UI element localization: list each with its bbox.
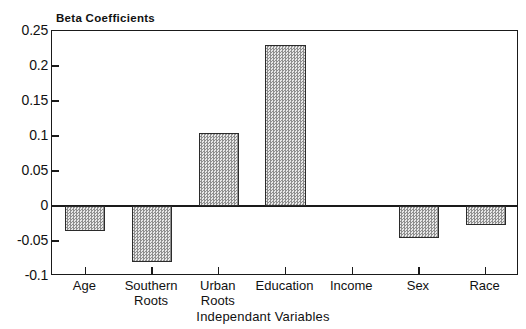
x-tick-mark [285, 267, 286, 274]
plot-inner [52, 31, 517, 274]
plot-area [51, 30, 518, 275]
bar-age [65, 206, 105, 231]
y-tick-label: 0.2 [2, 58, 48, 72]
x-axis-tick-labels: AgeSouthern RootsUrban RootsEducationInc… [51, 279, 518, 313]
y-tick-mark [52, 240, 59, 241]
y-tick-label: 0.25 [2, 23, 48, 37]
x-tick-mark [352, 267, 353, 274]
bar-race [466, 206, 506, 225]
x-tick-label: Income [330, 279, 373, 294]
bar-sex [399, 206, 439, 238]
y-tick-label: 0.15 [2, 93, 48, 107]
y-tick-mark [52, 205, 59, 206]
x-tick-label: Education [256, 279, 314, 294]
x-tick-label: Race [469, 279, 499, 294]
x-tick-label: Age [73, 279, 96, 294]
x-tick-label: Sex [407, 279, 429, 294]
x-tick-label: Urban Roots [200, 279, 235, 308]
y-tick-mark [52, 65, 59, 66]
y-tick-label: 0.05 [2, 163, 48, 177]
y-tick-label: 0 [2, 198, 48, 212]
x-tick-mark [485, 267, 486, 274]
bar-chart-figure: Beta Coefficients 0.250.20.150.10.050-0.… [0, 0, 526, 329]
y-tick-label: 0.1 [2, 128, 48, 142]
y-tick-label: -0.05 [2, 233, 48, 247]
y-tick-label: -0.1 [2, 268, 48, 282]
y-tick-mark [52, 170, 59, 171]
x-axis-title: Independant Variables [0, 310, 526, 324]
x-tick-label: Southern Roots [125, 279, 178, 308]
x-tick-mark [151, 267, 152, 274]
chart-title: Beta Coefficients [56, 12, 155, 24]
bar-urban-roots [199, 133, 239, 206]
x-tick-mark [218, 267, 219, 274]
bar-education [265, 45, 305, 206]
bar-southern-roots [132, 206, 172, 262]
y-tick-mark [52, 100, 59, 101]
x-tick-mark [85, 267, 86, 274]
y-tick-mark [52, 135, 59, 136]
x-tick-mark [418, 267, 419, 274]
y-axis-tick-labels: 0.250.20.150.10.050-0.05-0.1 [0, 0, 48, 329]
